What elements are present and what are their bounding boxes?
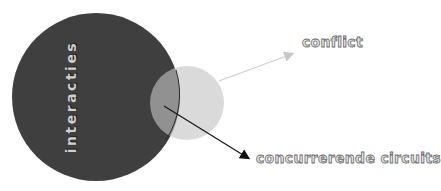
big-circle-label: interacties xyxy=(63,41,79,153)
conflict-label: conflict xyxy=(302,34,363,50)
concurrent-circuits-label: concurrerende circuits xyxy=(256,150,441,166)
small-light-circle xyxy=(150,66,224,140)
conflict-arrow xyxy=(219,54,292,81)
